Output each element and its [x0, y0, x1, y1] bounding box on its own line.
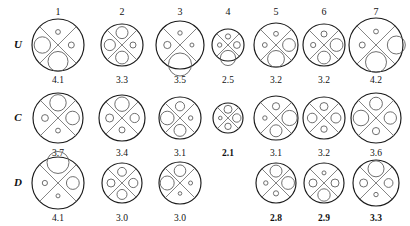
quadrant-glyph: [145, 148, 215, 218]
glyph-quadrant-right: [130, 113, 139, 122]
glyph-quadrant-top: [175, 102, 184, 111]
glyph-quadrant-bottom: [116, 51, 129, 64]
glyph-quadrant-bottom: [48, 51, 68, 71]
glyph-quadrant-right: [384, 112, 396, 124]
glyph-quadrant-top: [47, 151, 69, 173]
glyph-quadrant-top: [174, 165, 186, 177]
glyph-quadrant-left: [160, 111, 174, 125]
glyph-quadrant-bottom: [56, 194, 60, 198]
glyph-quadrant-top: [272, 103, 279, 110]
glyph-quadrant-bottom: [220, 50, 235, 65]
glyph-quadrant-top: [56, 30, 61, 35]
glyph-quadrant-top: [321, 31, 327, 37]
glyph-quadrant-bottom: [169, 53, 192, 76]
glyph-quadrant-right: [130, 42, 136, 48]
glyph-quadrant-right: [190, 43, 194, 47]
cell-d-3: [145, 148, 215, 218]
glyph-quadrant-top: [322, 171, 326, 175]
glyph-quadrant-left: [42, 115, 49, 122]
glyph-quadrant-right: [189, 181, 193, 185]
quadrant-glyph: [339, 146, 410, 220]
glyph-quadrant-top: [115, 97, 129, 111]
glyph-quadrant-top: [50, 95, 66, 111]
glyph-quadrant-left: [104, 39, 115, 50]
glyph-quadrant-top: [178, 31, 182, 35]
cell-value-d-7: 3.3: [354, 213, 398, 223]
glyph-quadrant-left: [34, 37, 50, 53]
glyph-quadrant-left: [264, 181, 268, 185]
glyph-quadrant-bottom: [273, 191, 278, 196]
glyph-quadrant-bottom: [270, 125, 282, 137]
glyph-quadrant-bottom: [366, 52, 387, 73]
glyph-quadrant-right: [384, 179, 393, 188]
glyph-quadrant-right: [66, 111, 80, 125]
glyph-quadrant-bottom: [268, 51, 285, 68]
glyph-quadrant-left: [164, 41, 171, 48]
cell-d-1: [18, 143, 98, 223]
glyph-quadrant-right: [188, 116, 192, 120]
glyph-quadrant-left: [309, 179, 317, 187]
glyph-quadrant-left: [262, 43, 267, 48]
glyph-quadrant-top: [320, 103, 328, 111]
quadrant-glyph: [18, 5, 98, 85]
glyph-quadrant-left: [42, 180, 47, 185]
glyph-quadrant-right: [68, 42, 74, 48]
glyph-quadrant-left: [160, 176, 174, 190]
glyph-quadrant-bottom: [117, 189, 127, 199]
glyph-quadrant-left: [360, 179, 368, 187]
glyph-quadrant-left: [217, 43, 221, 47]
glyph-quadrant-top: [270, 165, 282, 177]
glyph-quadrant-bottom: [56, 128, 61, 133]
cell-u-1: [18, 5, 98, 85]
glyph-quadrant-top: [224, 105, 232, 113]
quadrant-glyph: [18, 143, 98, 223]
glyph-quadrant-bottom: [119, 127, 125, 133]
glyph-quadrant-left: [106, 114, 114, 122]
glyph-quadrant-left: [263, 116, 267, 120]
glyph-quadrant-right: [129, 178, 138, 187]
glyph-quadrant-bottom: [374, 192, 378, 196]
glyph-quadrant-top: [225, 34, 230, 39]
glyph-quadrant-left: [307, 113, 317, 123]
glyph-quadrant-bottom: [372, 128, 379, 135]
glyph-quadrant-bottom: [225, 123, 231, 129]
glyph-quadrant-right: [66, 177, 79, 190]
glyph-quadrant-bottom: [318, 189, 330, 201]
glyph-quadrant-bottom: [174, 124, 186, 136]
glyph-quadrant-top: [368, 161, 384, 177]
glyph-quadrant-top: [118, 167, 127, 176]
cell-d-7: [339, 146, 410, 220]
glyph-quadrant-top: [274, 31, 279, 36]
quadrant-glyph: [335, 4, 410, 86]
glyph-quadrant-left: [218, 116, 222, 120]
glyph-quadrant-top: [370, 97, 383, 110]
cell-value-d-1: 4.1: [36, 213, 80, 223]
glyph-quadrant-top: [116, 27, 128, 39]
cell-value-d-2: 3.0: [100, 213, 144, 223]
glyph-quadrant-left: [311, 42, 316, 47]
glyph-quadrant-right: [331, 179, 339, 187]
cell-value-d-3: 3.0: [158, 213, 202, 223]
glyph-quadrant-bottom: [321, 126, 327, 132]
glyph-quadrant-left: [107, 179, 115, 187]
glyph-quadrant-left: [353, 110, 369, 126]
glyph-quadrant-bottom: [178, 192, 182, 196]
glyph-quadrant-top: [374, 29, 379, 34]
glyph-quadrant-left: [359, 42, 365, 48]
glyph-quadrant-bottom: [318, 51, 331, 64]
cell-u-7: [335, 4, 410, 86]
